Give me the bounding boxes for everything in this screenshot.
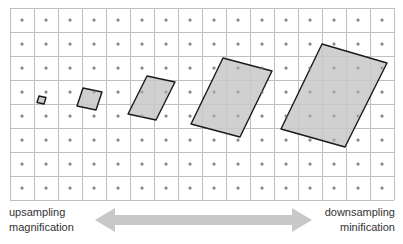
double-arrow-icon	[95, 208, 312, 232]
footprint-5	[281, 44, 387, 147]
footprint-4	[191, 58, 272, 137]
downsampling-text: downsampling	[325, 205, 395, 220]
magnification-label: upsampling magnification	[9, 205, 74, 235]
footprint-1	[37, 96, 46, 104]
minification-label: downsampling minification	[325, 205, 395, 235]
magnification-text: magnification	[9, 220, 74, 235]
footprint-3	[128, 76, 175, 120]
footprint-2	[77, 88, 102, 110]
minification-text: minification	[325, 220, 395, 235]
upsampling-text: upsampling	[9, 205, 74, 220]
